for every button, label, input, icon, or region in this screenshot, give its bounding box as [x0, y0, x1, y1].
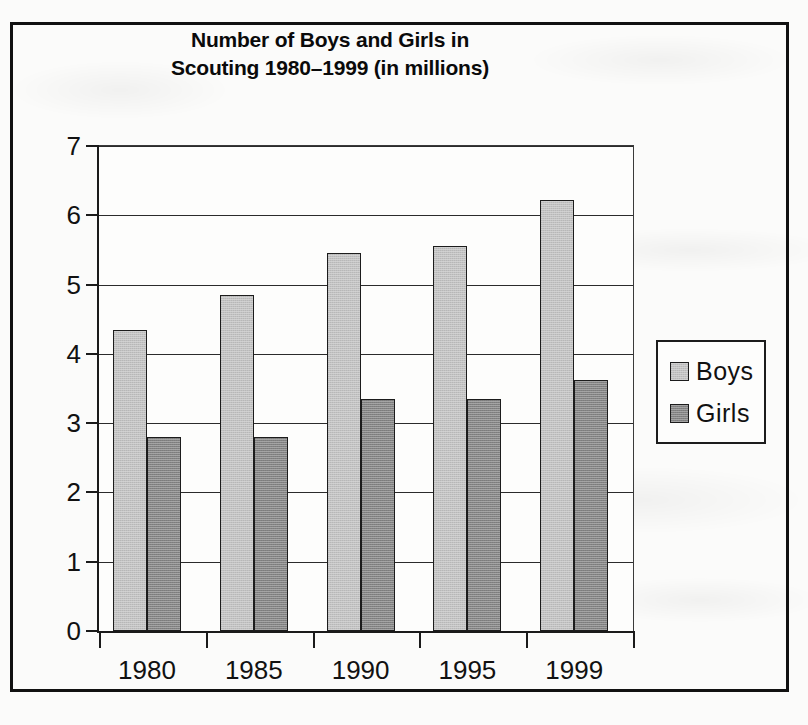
legend-item-boys: Boys	[670, 357, 754, 386]
bar-girls-1990	[361, 399, 395, 631]
y-tick-label-6: 6	[67, 200, 81, 231]
y-tick-label-1: 1	[67, 546, 81, 577]
bar-boys-1999	[540, 200, 574, 631]
y-tick-mark-1	[86, 561, 99, 563]
x-tick-mark-1995	[419, 631, 421, 648]
x-tick-mark-end	[633, 631, 635, 648]
y-tick-mark-4	[86, 353, 99, 355]
y-tick-mark-7	[86, 145, 99, 147]
bar-group-1980	[113, 146, 181, 631]
legend-label-boys: Boys	[696, 357, 754, 386]
bar-boys-1980	[113, 330, 147, 631]
y-tick-label-7: 7	[67, 131, 81, 162]
legend-label-girls: Girls	[696, 399, 750, 428]
x-tick-label-1995: 1995	[438, 655, 496, 686]
y-tick-label-3: 3	[67, 408, 81, 439]
y-tick-label-2: 2	[67, 477, 81, 508]
y-tick-label-4: 4	[67, 338, 81, 369]
x-tick-label-1990: 1990	[332, 655, 390, 686]
y-tick-mark-3	[86, 422, 99, 424]
bar-group-1995	[433, 146, 501, 631]
x-tick-mark-1985	[206, 631, 208, 648]
y-tick-mark-5	[86, 284, 99, 286]
bar-boys-1985	[220, 295, 254, 631]
y-tick-label-5: 5	[67, 269, 81, 300]
x-tick-mark-1990	[313, 631, 315, 648]
y-tick-mark-2	[86, 491, 99, 493]
bar-group-1999	[540, 146, 608, 631]
x-tick-label-1999: 1999	[545, 655, 603, 686]
bar-group-1985	[220, 146, 288, 631]
bar-boys-1995	[433, 246, 467, 631]
x-tick-mark-1999	[526, 631, 528, 648]
legend-swatch-boys	[670, 362, 689, 381]
x-tick-label-1980: 1980	[118, 655, 176, 686]
x-tick-label-1985: 1985	[225, 655, 283, 686]
bar-boys-1990	[327, 253, 361, 631]
bar-girls-1999	[574, 380, 608, 631]
bar-group-1990	[327, 146, 395, 631]
legend-swatch-girls	[670, 404, 689, 423]
legend-item-girls: Girls	[670, 399, 754, 428]
bars-layer	[99, 146, 633, 631]
y-tick-mark-0	[86, 630, 99, 632]
chart-title-line-2: Scouting 1980–1999 (in millions)	[30, 54, 630, 82]
bar-girls-1985	[254, 437, 288, 631]
plot-area: 01234567 19801985199019951999	[97, 145, 634, 633]
chart-title-line-1: Number of Boys and Girls in	[30, 26, 630, 54]
y-tick-mark-6	[86, 214, 99, 216]
y-tick-label-0: 0	[67, 616, 81, 647]
chart-legend: BoysGirls	[656, 340, 766, 444]
x-tick-mark-1980	[99, 631, 101, 648]
bar-girls-1980	[147, 437, 181, 631]
chart-title: Number of Boys and Girls in Scouting 198…	[30, 26, 630, 81]
bar-girls-1995	[467, 399, 501, 631]
